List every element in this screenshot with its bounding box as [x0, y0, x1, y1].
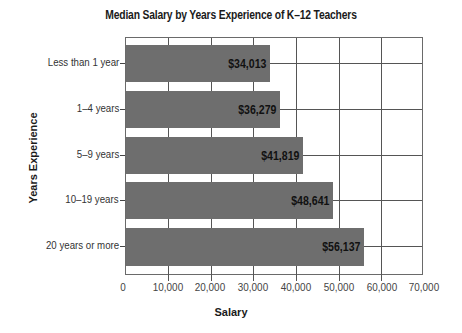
x-axis-title: Salary — [0, 306, 462, 318]
x-tick-label: 60,000 — [367, 281, 397, 293]
bar-10-19-years: $48,641 — [126, 182, 333, 219]
bar-value-label: $48,641 — [291, 194, 329, 208]
gridline-vertical — [381, 38, 382, 281]
bar-value-label: $41,819 — [261, 149, 299, 163]
y-tick-label: Less than 1 year — [47, 56, 119, 68]
y-tick-label: 1–4 years — [76, 102, 119, 114]
x-tick-label: 50,000 — [324, 281, 354, 293]
y-tick-label: 5–9 years — [76, 148, 119, 160]
bar-less-than-1-year: $34,013 — [126, 45, 270, 82]
plot-area: $34,013 $36,279 $41,819 $48,641 $56,137 — [125, 37, 423, 275]
bar-1-4-years: $36,279 — [126, 91, 280, 128]
x-tick-label: 30,000 — [238, 281, 268, 293]
bar-20-years-or-more: $56,137 — [126, 228, 364, 266]
x-tick-label: 70,000 — [409, 281, 439, 293]
x-tick-label: 10,000 — [153, 281, 183, 293]
y-axis-title: Years Experience — [27, 112, 39, 203]
bar-value-label: $34,013 — [228, 57, 266, 71]
chart-title: Median Salary by Years Experience of K–1… — [32, 8, 429, 22]
bar-5-9-years: $41,819 — [126, 137, 303, 174]
x-tick-label: 40,000 — [281, 281, 311, 293]
bar-value-label: $56,137 — [322, 240, 360, 254]
bar-value-label: $36,279 — [238, 103, 276, 117]
y-tick-label: 10–19 years — [66, 193, 119, 205]
x-tick-label: 20,000 — [195, 281, 225, 293]
x-tick-label: 0 — [120, 281, 126, 293]
y-tick-label: 20 years or more — [46, 239, 119, 251]
